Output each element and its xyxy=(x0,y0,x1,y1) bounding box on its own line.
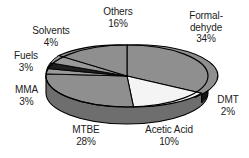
slice-label-dmt-name: DMT xyxy=(210,94,246,106)
pie-chart-figure: Others 16% Formal- dehyde 34% Solvents 4… xyxy=(0,0,249,158)
slice-label-fuels-name: Fuels xyxy=(5,50,47,62)
slice-label-solvents-value: 4% xyxy=(20,37,82,49)
slice-label-mma-name: MMA xyxy=(4,84,49,96)
slice-label-mtbe-value: 28% xyxy=(56,136,116,148)
slice-label-formaldehyde-line1: Formal- xyxy=(173,10,239,22)
slice-label-acetic-acid-name: Acetic Acid xyxy=(133,124,205,136)
slice-label-others: Others 16% xyxy=(88,6,148,29)
slice-label-fuels-value: 3% xyxy=(5,62,47,74)
slice-label-dmt-value: 2% xyxy=(210,106,246,118)
slice-label-mtbe-name: MTBE xyxy=(56,124,116,136)
slice-label-others-value: 16% xyxy=(88,18,148,30)
slice-label-fuels: Fuels 3% xyxy=(5,50,47,73)
slice-label-acetic-acid-value: 10% xyxy=(133,136,205,148)
slice-label-acetic-acid: Acetic Acid 10% xyxy=(133,124,205,147)
slice-label-mma-value: 3% xyxy=(4,96,49,108)
slice-label-formaldehyde-line2: dehyde xyxy=(173,22,239,34)
slice-label-dmt: DMT 2% xyxy=(210,94,246,117)
slice-label-solvents: Solvents 4% xyxy=(20,25,82,48)
slice-label-mtbe: MTBE 28% xyxy=(56,124,116,147)
slice-label-mma: MMA 3% xyxy=(4,84,49,107)
slice-label-solvents-name: Solvents xyxy=(20,25,82,37)
slice-label-others-name: Others xyxy=(88,6,148,18)
pie-top-face xyxy=(46,45,218,107)
slice-label-formaldehyde: Formal- dehyde 34% xyxy=(173,10,239,45)
slice-label-formaldehyde-value: 34% xyxy=(173,33,239,45)
